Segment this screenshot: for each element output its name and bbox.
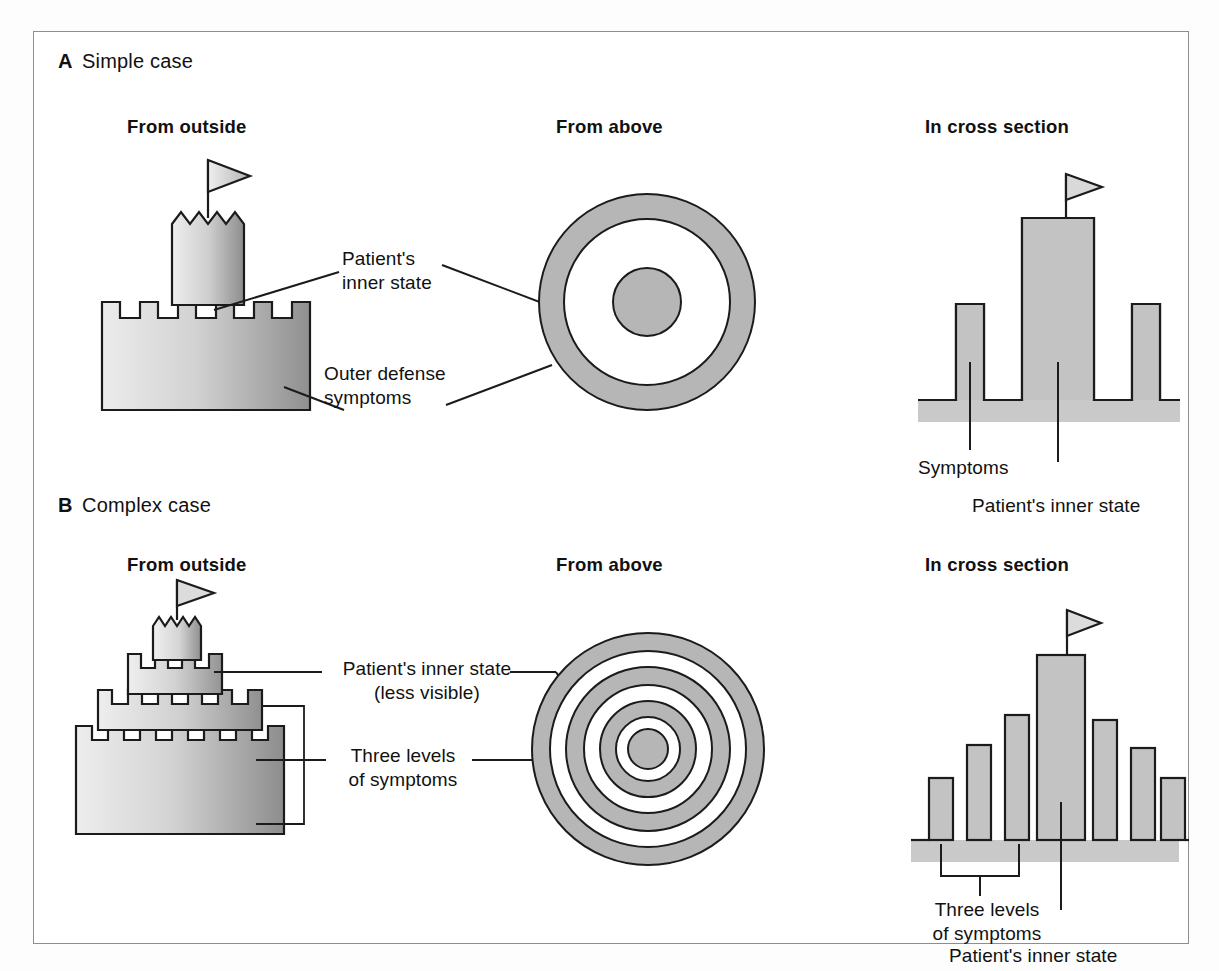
panel-a-col-head-from-above: From above [556, 116, 663, 138]
panel-a-label-outer-defense-line1: Outer defense [324, 362, 446, 386]
panel-b-label-inner-state-line1: Patient's inner state [327, 657, 527, 681]
panel-a-tag: A [58, 50, 73, 73]
panel-b-tag: B [58, 494, 73, 517]
panel-a-from-above [527, 182, 767, 422]
panel-a-cross-section [894, 162, 1194, 462]
center-dot [628, 729, 668, 769]
panel-b-from-above [523, 624, 773, 874]
panel-a-label-inner-state-line2: inner state [342, 271, 432, 295]
panel-b-label-cross-three-levels: Three levels of symptoms [913, 898, 1061, 946]
panel-a-label-outer-defense-line2: symptoms [324, 386, 446, 410]
cross-bar-5 [1093, 720, 1117, 840]
panel-a-title: Simple case [82, 50, 193, 73]
panel-b-col-head-from-above: From above [556, 554, 663, 576]
panel-a-label-cross-inner-state: Patient's inner state [972, 494, 1140, 518]
panel-b-label-three-levels-line2: of symptoms [329, 768, 477, 792]
ground-band [911, 840, 1179, 862]
cross-bar-6 [1131, 748, 1155, 840]
flag-icon [208, 160, 250, 192]
panel-b-col-head-cross-section: In cross section [925, 554, 1069, 576]
panel-b-label-inner-state-line2: (less visible) [327, 681, 527, 705]
cross-bars [929, 655, 1185, 840]
panel-b-label-three-levels-line1: Three levels [329, 744, 477, 768]
castle-keep [153, 617, 201, 660]
panel-b-label-cross-three-levels-line2: of symptoms [913, 922, 1061, 946]
panel-b-label-inner-state: Patient's inner state (less visible) [327, 657, 527, 705]
leader-inner-state-left [214, 272, 339, 310]
panel-b-label-cross-inner-state: Patient's inner state [949, 944, 1117, 968]
panel-a-label-outer-defense: Outer defense symptoms [324, 362, 446, 410]
panel-a-label-inner-state: Patient's inner state [342, 247, 432, 295]
flag-icon [177, 580, 214, 606]
flag-icon [1067, 610, 1101, 636]
figure-frame: A Simple case From outside From above In… [33, 31, 1189, 944]
cross-bar-7 [1161, 778, 1185, 840]
panel-b-label-three-levels: Three levels of symptoms [329, 744, 477, 792]
panel-a-col-head-from-outside: From outside [127, 116, 247, 138]
panel-b-col-head-from-outside: From outside [127, 554, 247, 576]
cross-bar-3 [1005, 715, 1029, 840]
panel-b-label-cross-three-levels-line1: Three levels [913, 898, 1061, 922]
panel-b-title: Complex case [82, 494, 211, 517]
figure-root: A Simple case From outside From above In… [0, 0, 1219, 971]
cross-bar-1 [929, 778, 953, 840]
panel-b-cross-section [889, 592, 1199, 922]
ground-band [918, 400, 1180, 422]
cross-bar-right [1132, 304, 1160, 400]
cross-bar-2 [967, 745, 991, 840]
panel-a-label-inner-state-line1: Patient's [342, 247, 432, 271]
panel-a-label-cross-symptoms: Symptoms [918, 456, 1009, 480]
flag-icon [1066, 174, 1102, 200]
panel-a-col-head-cross-section: In cross section [925, 116, 1069, 138]
center-dot [613, 268, 681, 336]
